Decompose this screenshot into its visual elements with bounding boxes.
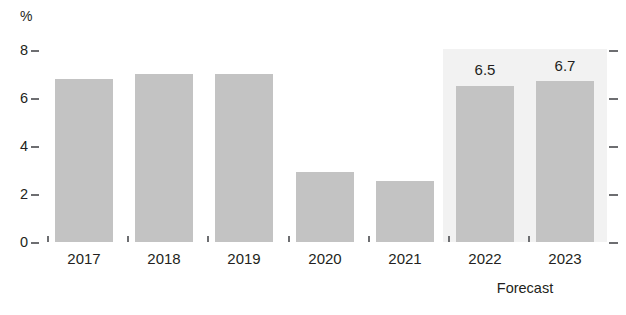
x-axis-tickmark-4 (368, 236, 370, 242)
x-axis-label-2020: 2020 (296, 251, 354, 266)
bar-chart: % 8 6 4 2 0 6.5 6.7 2017 2018 (0, 0, 626, 315)
y-axis-unit-label: % (20, 8, 33, 24)
bar-2020 (296, 172, 354, 242)
bar-2021 (376, 181, 434, 242)
y-axis-tickmark-right-6 (609, 98, 618, 100)
y-axis-tickmark-right-0 (609, 242, 618, 244)
bar-2019 (215, 74, 273, 242)
y-axis-tickmark-left-6 (31, 98, 39, 100)
x-axis-label-2017: 2017 (55, 251, 113, 266)
x-axis-tickmark-2 (207, 236, 209, 242)
y-axis-tickmark-right-8 (609, 50, 618, 52)
y-axis-tickmark-left-4 (31, 146, 39, 148)
x-axis-tickmark-0 (47, 236, 49, 242)
y-axis-tickmark-left-0 (31, 242, 39, 244)
x-axis-tickmark-3 (288, 236, 290, 242)
y-axis-label-2: 2 (8, 187, 28, 202)
bar-2017 (55, 79, 113, 242)
x-axis-tickmark-6 (528, 236, 530, 242)
x-axis-label-2023: 2023 (536, 251, 594, 266)
y-axis-tickmark-right-4 (609, 146, 618, 148)
y-axis-tickmark-left-8 (31, 50, 39, 52)
x-axis-label-2022: 2022 (456, 251, 514, 266)
x-axis-label-2021: 2021 (376, 251, 434, 266)
bar-2018 (135, 74, 193, 242)
bar-2023 (536, 81, 594, 242)
y-axis-tickmark-right-2 (609, 194, 618, 196)
bar-value-2022: 6.5 (456, 62, 514, 77)
y-axis-label-4: 4 (8, 139, 28, 154)
forecast-caption: Forecast (443, 281, 607, 296)
x-axis-tickmark-1 (127, 236, 129, 242)
x-axis-label-2019: 2019 (215, 251, 273, 266)
x-axis-label-2018: 2018 (135, 251, 193, 266)
y-axis-tickmark-left-2 (31, 194, 39, 196)
y-axis-label-0: 0 (8, 235, 28, 250)
y-axis-label-8: 8 (8, 43, 28, 58)
x-axis-tickmark-5 (448, 236, 450, 242)
bar-2022 (456, 86, 514, 242)
y-axis-label-6: 6 (8, 91, 28, 106)
bar-value-2023: 6.7 (536, 58, 594, 73)
